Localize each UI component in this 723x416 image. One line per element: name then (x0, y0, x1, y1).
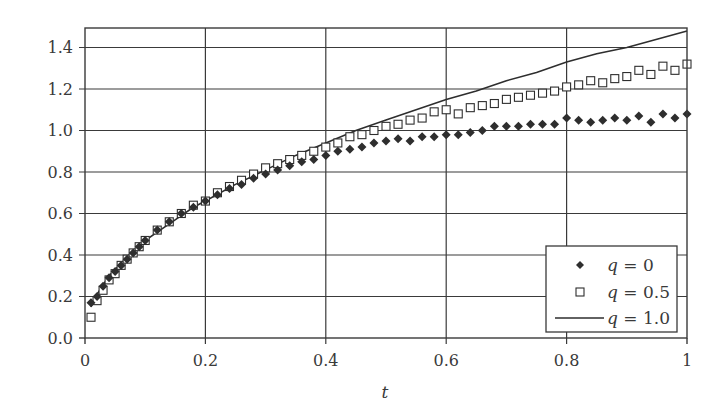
diamond-marker (562, 114, 571, 123)
diamond-marker (430, 132, 439, 141)
diamond-marker (538, 120, 547, 129)
diamond-marker (514, 122, 523, 131)
diamond-marker (610, 114, 619, 123)
x-tick-label: 0 (80, 351, 90, 370)
diamond-marker (321, 151, 330, 160)
square-marker (502, 95, 510, 103)
square-marker (671, 66, 679, 74)
square-marker (611, 75, 619, 83)
square-marker (526, 91, 534, 99)
square-marker (310, 147, 318, 155)
square-marker (623, 73, 631, 81)
legend-label: q = 1.0 (607, 308, 670, 328)
square-marker (334, 139, 342, 147)
x-axis-tick-labels: 00.20.40.60.81 (80, 351, 692, 370)
diamond-marker (634, 111, 643, 120)
square-marker (418, 114, 426, 122)
diamond-marker (406, 136, 415, 145)
diamond-marker (622, 116, 631, 125)
square-marker (87, 313, 95, 321)
y-axis-tick-labels: 0.00.20.40.60.81.01.21.4 (48, 38, 73, 348)
diamond-marker (418, 132, 427, 141)
diamond-marker (309, 155, 318, 164)
y-tick-label: 1.2 (48, 80, 73, 99)
square-marker (370, 127, 378, 135)
square-marker (478, 102, 486, 110)
square-marker (406, 116, 414, 124)
legend-square-icon (576, 288, 584, 296)
square-marker (346, 133, 354, 141)
square-marker (358, 131, 366, 139)
y-tick-label: 0.6 (48, 204, 73, 223)
diamond-marker (442, 130, 451, 139)
chart-canvas: 00.20.40.60.81 0.00.20.40.60.81.01.21.4 … (0, 0, 723, 416)
square-marker (575, 81, 583, 89)
diamond-marker (369, 138, 378, 147)
square-marker (490, 100, 498, 108)
diamond-marker (394, 134, 403, 143)
square-marker (394, 120, 402, 128)
legend-label: q = 0.5 (607, 282, 670, 302)
square-marker (635, 66, 643, 74)
x-tick-label: 0.6 (433, 351, 458, 370)
y-tick-label: 0.0 (48, 329, 73, 348)
diamond-marker (490, 122, 499, 131)
diamond-marker (598, 116, 607, 125)
square-marker (551, 87, 559, 95)
square-marker (587, 77, 595, 85)
x-axis-label: t (382, 382, 389, 402)
y-tick-label: 0.8 (48, 163, 73, 182)
diamond-marker (670, 114, 679, 123)
x-tick-label: 0.8 (554, 351, 579, 370)
diamond-marker (382, 136, 391, 145)
square-marker (382, 122, 390, 130)
diamond-marker (586, 118, 595, 127)
diamond-marker (466, 128, 475, 137)
square-marker (599, 79, 607, 87)
y-tick-label: 0.2 (48, 287, 73, 306)
square-marker (539, 89, 547, 97)
diamond-marker (357, 143, 366, 152)
square-marker (442, 106, 450, 114)
y-tick-label: 1.0 (48, 121, 73, 140)
square-marker (454, 110, 462, 118)
diamond-marker (646, 118, 655, 127)
diamond-marker (550, 120, 559, 129)
diamond-marker (345, 145, 354, 154)
diamond-marker (574, 116, 583, 125)
square-marker (514, 93, 522, 101)
legend: q = 0q = 0.5q = 1.0 (546, 246, 677, 332)
square-marker (659, 62, 667, 70)
diamond-marker (478, 126, 487, 135)
square-marker (563, 83, 571, 91)
square-marker (322, 143, 330, 151)
y-tick-label: 1.4 (48, 38, 73, 57)
diamond-marker (333, 147, 342, 156)
diamond-marker (454, 130, 463, 139)
y-tick-label: 0.4 (48, 246, 73, 265)
square-marker (466, 104, 474, 112)
square-marker (430, 108, 438, 116)
x-tick-label: 0.4 (313, 351, 338, 370)
diamond-marker (502, 122, 511, 131)
legend-label: q = 0 (607, 255, 654, 275)
x-tick-label: 1 (682, 351, 692, 370)
diamond-marker (526, 120, 535, 129)
square-marker (647, 70, 655, 78)
diamond-marker (658, 109, 667, 118)
x-tick-label: 0.2 (193, 351, 218, 370)
